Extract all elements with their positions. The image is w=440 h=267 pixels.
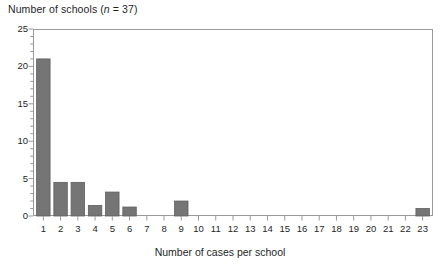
bar — [88, 206, 101, 216]
y-tick-label: 10 — [6, 135, 28, 146]
y-tick-label: 20 — [6, 60, 28, 71]
bar — [123, 207, 136, 216]
y-tick-label: 5 — [6, 173, 28, 184]
bar — [71, 182, 84, 216]
bar — [175, 201, 188, 216]
bar — [37, 59, 50, 216]
bars-group — [37, 59, 430, 216]
bar — [106, 192, 119, 216]
x-axis-title: Number of cases per school — [0, 246, 440, 258]
bar — [416, 209, 429, 216]
y-tick-label: 15 — [6, 98, 28, 109]
bar-chart: Number of schools (n = 37) 0510152025 12… — [0, 0, 440, 267]
x-tick-label: 23 — [412, 223, 434, 234]
x-axis-ticks — [43, 216, 422, 221]
y-tick-label: 25 — [6, 23, 28, 34]
bar — [54, 182, 67, 216]
y-tick-label: 0 — [6, 210, 28, 221]
y-axis-ticks — [29, 29, 34, 216]
